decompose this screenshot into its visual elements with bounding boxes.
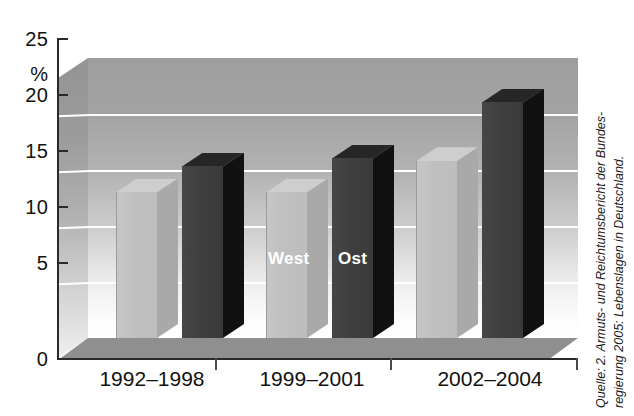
y-tick-label-10: 10 xyxy=(2,197,48,217)
bar-side-face xyxy=(457,147,478,338)
x-category-label-2: 1999–2001 xyxy=(232,368,392,389)
y-tick-label-15: 15 xyxy=(2,141,48,161)
bar-side-face xyxy=(373,145,394,338)
source-note-line-1: Quelle: 2. Armuts- und Reichtumsbericht … xyxy=(592,112,610,408)
bar-side-face xyxy=(307,179,328,338)
plot-floor xyxy=(58,338,578,360)
y-tick-mark-5 xyxy=(57,262,68,264)
series-label-west: West xyxy=(268,249,309,269)
y-tick-label-5: 5 xyxy=(2,253,48,273)
y-axis-line xyxy=(57,38,59,360)
y-tick-label-25: 25 xyxy=(2,29,48,49)
plot-area: West Ost xyxy=(88,58,578,338)
series-label-ost: Ost xyxy=(332,249,373,269)
bar-front-face xyxy=(482,102,523,338)
bar-ost-1999-2001[interactable]: Ost xyxy=(332,58,394,338)
y-tick-label-0: 0 xyxy=(2,349,48,369)
source-note-line-2: regierung 2005: Lebenslagen in Deutschla… xyxy=(610,112,628,408)
bar-front-face xyxy=(182,166,223,338)
bar-side-face xyxy=(157,179,178,338)
bar-side-face xyxy=(223,153,244,338)
chart-canvas: West Ost 25 % 20 15 10 5 0 xyxy=(0,0,634,416)
bar-front-face xyxy=(416,161,458,338)
x-category-label-3: 2002–2004 xyxy=(410,368,570,389)
y-tick-label-20: 20 xyxy=(2,85,48,105)
y-tick-mark-10 xyxy=(57,206,68,208)
y-tick-mark-25 xyxy=(57,38,68,40)
bar-west-1992-1998[interactable] xyxy=(116,58,178,338)
bar-west-2002-2004[interactable] xyxy=(416,58,478,338)
x-category-label-1: 1992–1998 xyxy=(72,368,232,389)
bar-ost-2002-2004[interactable] xyxy=(482,58,544,338)
source-note: Quelle: 2. Armuts- und Reichtumsbericht … xyxy=(592,112,628,408)
bar-side-face xyxy=(523,89,544,338)
bar-ost-1992-1998[interactable] xyxy=(182,58,244,338)
bar-front-face xyxy=(116,192,158,338)
x-tick-mark-3 xyxy=(576,358,578,370)
bar-west-1999-2001[interactable]: West xyxy=(266,58,328,338)
y-axis-unit-label: % xyxy=(2,64,48,84)
x-axis-line xyxy=(57,358,578,360)
y-tick-mark-20 xyxy=(57,94,68,96)
y-tick-mark-15 xyxy=(57,150,68,152)
